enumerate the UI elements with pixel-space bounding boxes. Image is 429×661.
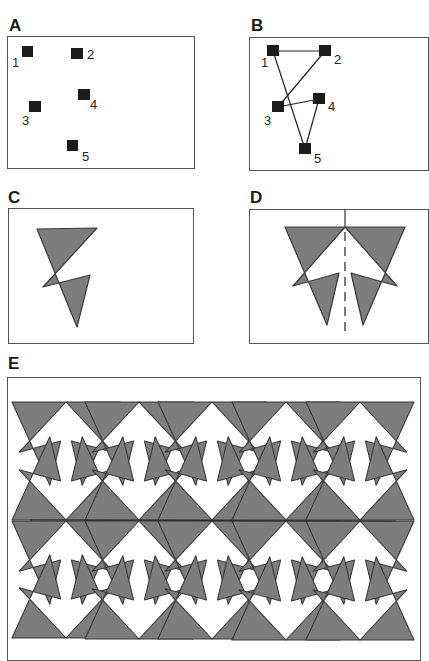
- panel-b-graph: 1 2 3 4 5: [261, 45, 341, 166]
- svg-text:3: 3: [22, 113, 29, 128]
- svg-text:2: 2: [334, 52, 341, 67]
- panel-d-reflection: [285, 209, 405, 332]
- svg-text:2: 2: [87, 47, 94, 62]
- svg-text:5: 5: [82, 149, 89, 164]
- svg-text:1: 1: [12, 55, 19, 70]
- svg-text:4: 4: [328, 99, 335, 114]
- svg-text:4: 4: [90, 97, 97, 112]
- svg-text:1: 1: [261, 55, 268, 70]
- panel-e-tiling: [12, 402, 414, 640]
- svg-text:3: 3: [264, 113, 271, 128]
- panel-a-points: 1 2 3 4 5: [12, 46, 97, 164]
- panel-c-motif: [37, 228, 97, 327]
- svg-text:5: 5: [314, 151, 321, 166]
